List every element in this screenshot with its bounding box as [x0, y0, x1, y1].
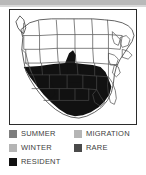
legend-item-winter: WINTER: [9, 143, 52, 153]
top-band-shadow: [0, 5, 146, 7]
legend-label-rare: RARE: [86, 144, 108, 152]
legend-swatch-winter: [9, 144, 17, 152]
legend-label-resident: RESIDENT: [21, 158, 61, 166]
legend-label-migration: MIGRATION: [86, 130, 130, 138]
map-panel: [9, 9, 137, 125]
legend-item-resident: RESIDENT: [9, 157, 61, 167]
map-legend: SUMMER WINTER RESIDENT MIGRATION RARE: [9, 128, 146, 173]
legend-swatch-resident: [9, 158, 17, 166]
legend-item-migration: MIGRATION: [74, 129, 130, 139]
range-shading-resident: [24, 50, 112, 116]
legend-item-rare: RARE: [74, 143, 108, 153]
legend-swatch-rare: [74, 144, 82, 152]
legend-label-winter: WINTER: [21, 144, 52, 152]
legend-item-summer: SUMMER: [9, 129, 56, 139]
legend-label-summer: SUMMER: [21, 130, 56, 138]
us-map-svg: [10, 10, 136, 124]
legend-swatch-migration: [74, 130, 82, 138]
legend-swatch-summer: [9, 130, 17, 138]
range-map-figure: SUMMER WINTER RESIDENT MIGRATION RARE: [0, 0, 146, 175]
